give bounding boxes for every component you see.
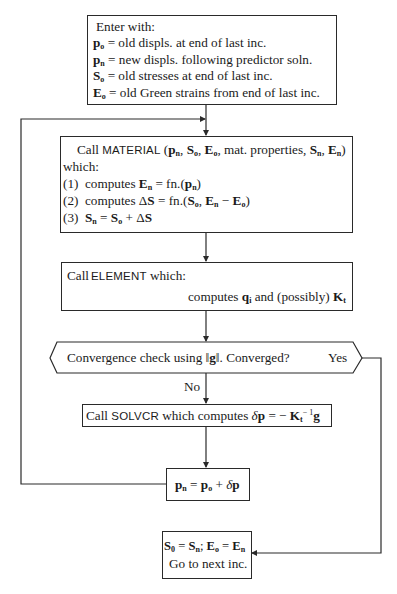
final-line-2: Go to next inc. — [169, 556, 247, 571]
material-step-2: (2) computes ΔS = fn.(So, En − Eo) — [63, 193, 250, 208]
entry-line-eo: Eo = old Green strains from end of last … — [93, 85, 320, 100]
element-box: CallELEMENT which: computes qi and (poss… — [61, 262, 353, 311]
solver-routine-name: SOLVCR — [111, 410, 159, 422]
material-step-3: (3) Sn = So + ΔS — [63, 210, 152, 225]
entry-title: Enter with: — [96, 19, 155, 34]
entry-box: Enter with: po = old displs. at end of l… — [87, 15, 337, 105]
entry-line-po: po = old displs. at end of last inc. — [93, 35, 266, 50]
material-routine-name: MATERIAL — [102, 144, 160, 156]
update-expr: pn = po + δp — [175, 477, 240, 492]
element-computes-line: computes qi and (possibly) Kt — [188, 289, 346, 304]
final-line-1: S0 = Sn; Eo = En — [164, 539, 245, 554]
material-call-line: Call MATERIAL (pn, So, Eo, mat. properti… — [77, 142, 346, 158]
solver-box: Call SOLVCR which computes δp = − Kt− 1g — [82, 404, 332, 427]
material-step-1: (1) computes En = fn.(pn) — [63, 176, 201, 191]
entry-line-so: So = old stresses at end of last inc. — [93, 68, 273, 83]
solver-line: Call SOLVCR which computes δp = − Kt− 1g — [86, 408, 320, 424]
convergence-check-text: Convergence check using ‖g‖. Converged? — [67, 350, 290, 365]
update-box: pn = po + δp — [166, 468, 250, 501]
element-call-line: CallELEMENT which: — [67, 268, 186, 284]
entry-line-pn: pn = new displs. following predictor sol… — [93, 52, 312, 67]
final-box: S0 = Sn; Eo = En Go to next inc. — [162, 531, 252, 579]
material-which: which: — [63, 159, 99, 174]
yes-label: Yes — [328, 350, 347, 365]
material-box: Call MATERIAL (pn, So, Eo, mat. properti… — [60, 136, 353, 233]
element-routine-name: ELEMENT — [91, 270, 147, 282]
no-label: No — [184, 379, 200, 394]
